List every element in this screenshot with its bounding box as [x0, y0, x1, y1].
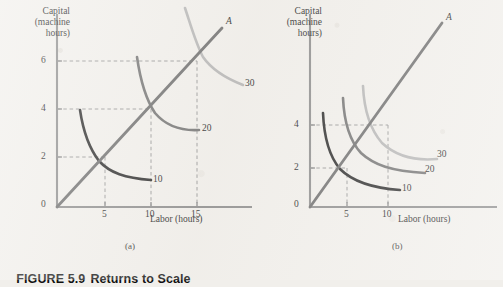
panel-b-y-tick-2: 2: [294, 162, 299, 172]
panel-b-x-axis-label: Labor (hours): [398, 214, 451, 225]
panel-b-isoquant-label-20: 20: [425, 164, 435, 174]
panel-a-origin-label: 0: [41, 199, 46, 209]
panel-b-isoquant-30: [363, 86, 437, 159]
panel-b-x-tick-5: 5: [344, 209, 349, 219]
panel-a-isoquant-30: [185, 8, 243, 85]
panel-a-x-tick-10: 10: [145, 209, 155, 219]
panel-a-ray-label: A: [226, 16, 232, 26]
panel-b-y-axis-label: Capital (machine hours): [258, 6, 322, 40]
panel-a-constant-returns: Capital (machine hours) Labor (hours) 6 …: [0, 0, 260, 236]
panel-b-origin-label: 0: [294, 199, 299, 209]
panel-b-isoquant-label-30: 30: [437, 149, 447, 159]
panel-a-x-tick-15: 15: [191, 209, 201, 219]
panel-a-y-tick-2: 2: [41, 151, 46, 161]
panel-b-increasing-returns: Capital (machine hours) Labor (hours) 4 …: [252, 0, 503, 236]
panel-a-isoquant-20: [137, 57, 199, 130]
panel-a-isoquant-label-10: 10: [153, 174, 163, 184]
panel-b-axes: [310, 14, 497, 207]
panel-b-ray-label: A: [446, 12, 452, 22]
panel-a-y-tick-4: 4: [41, 103, 46, 113]
panel-a-y-tick-6: 6: [41, 55, 46, 65]
figure-caption: FIGURE 5.9Returns to Scale: [2, 258, 191, 287]
panel-b-y-tick-4: 4: [294, 119, 299, 129]
figure-title: Returns to Scale: [90, 272, 190, 286]
panel-a-x-tick-5: 5: [102, 209, 107, 219]
panel-a-isoquant-label-20: 20: [202, 123, 212, 133]
panel-b-ray-a: [310, 23, 442, 207]
panel-b-isoquant-label-10: 10: [402, 183, 412, 193]
panel-a-letter: (a): [125, 241, 135, 251]
panel-b-x-tick-10: 10: [382, 209, 392, 219]
panel-b-isoquant-20: [343, 98, 425, 173]
figure-number: FIGURE 5.9: [16, 272, 85, 286]
panel-b-letter: (b): [392, 241, 403, 251]
panel-a-y-axis-label: Capital (machine hours): [6, 6, 70, 40]
